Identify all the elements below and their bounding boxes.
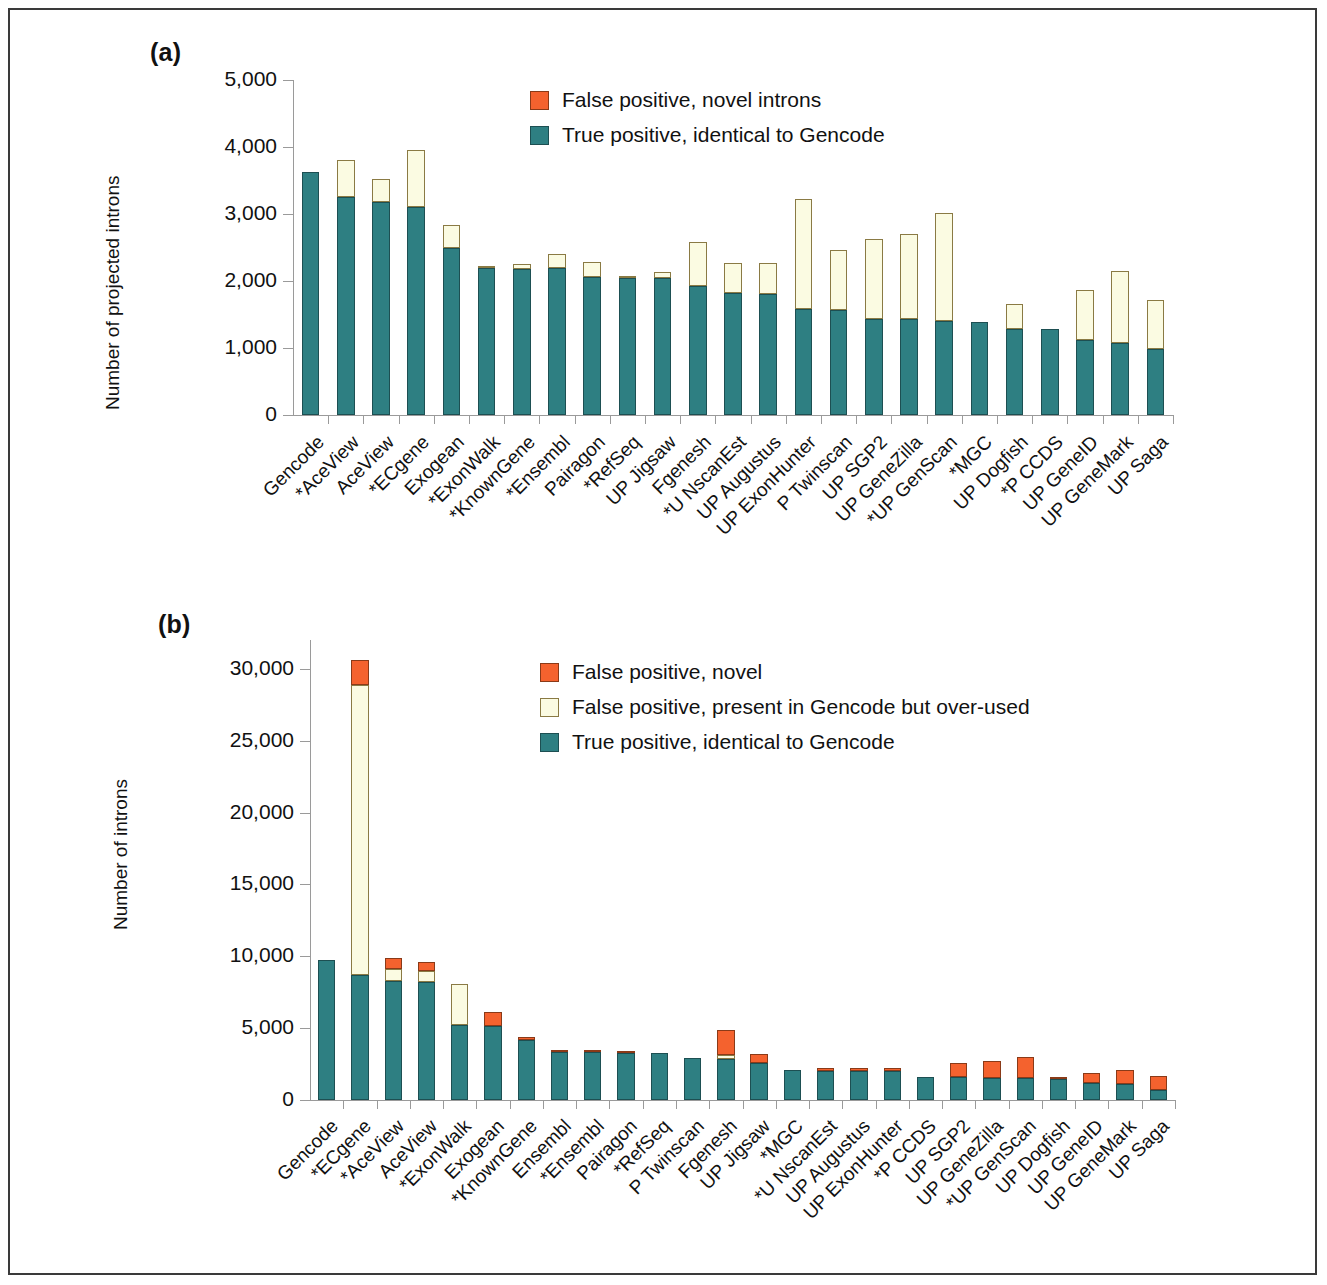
x-tick-mark <box>1032 415 1033 424</box>
bar-segment <box>351 975 368 1100</box>
bar-segment <box>865 319 883 415</box>
bar-segment <box>950 1077 967 1100</box>
bar[interactable] <box>1050 640 1067 1100</box>
panel-a-legend: False positive, novel intronsTrue positi… <box>530 88 885 158</box>
bar-segment <box>1150 1090 1167 1100</box>
bar[interactable] <box>1083 640 1100 1100</box>
bar[interactable] <box>1006 80 1024 415</box>
bar-segment <box>830 250 848 310</box>
y-tick-label: 2,000 <box>224 268 277 292</box>
bar-segment <box>983 1061 1000 1078</box>
bar-segment <box>619 278 637 415</box>
bar-segment <box>1041 329 1059 415</box>
x-tick-mark <box>410 1100 411 1109</box>
panel-b-x-tick-labels: Gencode*ECgene*AceViewAceView*ExonWalkEx… <box>310 1112 1175 1272</box>
bar-segment <box>551 1050 568 1052</box>
x-tick-mark <box>363 415 364 424</box>
panel-a-x-tick-labels: Gencode*AceViewAceView*ECgeneExogean*Exo… <box>293 428 1173 578</box>
bar-segment <box>1116 1070 1133 1084</box>
bar[interactable] <box>513 80 531 415</box>
x-tick-mark <box>809 1100 810 1109</box>
bar-segment <box>935 213 953 322</box>
bar-segment <box>750 1054 767 1063</box>
bar[interactable] <box>418 640 435 1100</box>
bar[interactable] <box>351 640 368 1100</box>
bar-segment <box>917 1077 934 1100</box>
y-tick-mark <box>283 281 293 282</box>
x-tick-mark <box>576 1100 577 1109</box>
legend-label: True positive, identical to Gencode <box>562 123 885 147</box>
bar[interactable] <box>451 640 468 1100</box>
x-tick-mark <box>680 415 681 424</box>
bar-segment <box>1006 304 1024 328</box>
bar[interactable] <box>302 80 320 415</box>
bar-segment <box>513 269 531 415</box>
bar-segment <box>950 1063 967 1077</box>
bar[interactable] <box>443 80 461 415</box>
bar-segment <box>651 1053 668 1100</box>
bar[interactable] <box>900 80 918 415</box>
y-tick-label: 15,000 <box>230 871 294 895</box>
x-tick-mark <box>539 415 540 424</box>
bar-segment <box>654 272 672 279</box>
bar-segment <box>478 266 496 268</box>
bar-segment <box>385 958 402 970</box>
bar-segment <box>795 199 813 309</box>
y-tick-mark <box>300 1028 310 1029</box>
bar-segment <box>478 268 496 415</box>
bar[interactable] <box>1150 640 1167 1100</box>
bar[interactable] <box>518 640 535 1100</box>
bar-segment <box>385 969 402 981</box>
x-tick-mark <box>476 1100 477 1109</box>
bar-segment <box>583 277 601 415</box>
bar-segment <box>484 1012 501 1026</box>
bar[interactable] <box>971 80 989 415</box>
bar-segment <box>548 268 566 415</box>
bar[interactable] <box>407 80 425 415</box>
bar[interactable] <box>337 80 355 415</box>
bar-segment <box>684 1058 701 1100</box>
bar-segment <box>817 1068 834 1071</box>
y-tick-label: 5,000 <box>241 1015 294 1039</box>
y-tick-label: 30,000 <box>230 656 294 680</box>
y-tick-label: 1,000 <box>224 335 277 359</box>
bar-segment <box>724 293 742 415</box>
x-tick-mark <box>1103 415 1104 424</box>
bar[interactable] <box>1111 80 1129 415</box>
bar-segment <box>830 310 848 415</box>
bar[interactable] <box>1147 80 1165 415</box>
bar[interactable] <box>318 640 335 1100</box>
legend-item: False positive, present in Gencode but o… <box>540 695 1030 719</box>
bar[interactable] <box>1076 80 1094 415</box>
x-tick-mark <box>343 1100 344 1109</box>
x-tick-mark <box>434 415 435 424</box>
y-tick-mark <box>300 813 310 814</box>
y-tick-mark <box>300 956 310 957</box>
x-tick-mark <box>962 415 963 424</box>
x-tick-mark <box>786 415 787 424</box>
y-tick-mark <box>283 348 293 349</box>
bar-segment <box>884 1068 901 1071</box>
bar-segment <box>1050 1077 1067 1079</box>
panel-b-legend: False positive, novelFalse positive, pre… <box>540 660 1030 765</box>
legend-swatch <box>540 733 559 752</box>
bar-segment <box>759 263 777 294</box>
bar-segment <box>551 1052 568 1100</box>
bar[interactable] <box>1116 640 1133 1100</box>
bar[interactable] <box>1041 80 1059 415</box>
y-tick-mark <box>300 1100 310 1101</box>
legend-label: False positive, present in Gencode but o… <box>572 695 1030 719</box>
bar[interactable] <box>372 80 390 415</box>
bar-segment <box>1111 271 1129 343</box>
y-tick-mark <box>283 415 293 416</box>
y-tick-label: 4,000 <box>224 134 277 158</box>
bar[interactable] <box>385 640 402 1100</box>
bar[interactable] <box>935 80 953 415</box>
bar-segment <box>337 197 355 415</box>
x-tick-mark <box>942 1100 943 1109</box>
bar[interactable] <box>484 640 501 1100</box>
bar-segment <box>795 309 813 415</box>
bar-segment <box>983 1078 1000 1100</box>
bar[interactable] <box>478 80 496 415</box>
x-tick-mark <box>1075 1100 1076 1109</box>
